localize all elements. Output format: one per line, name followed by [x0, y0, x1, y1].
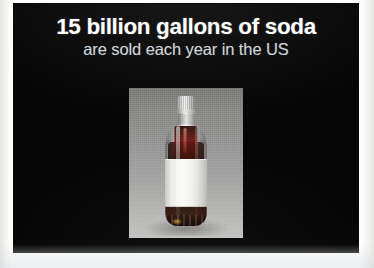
bottle-blank-label: [165, 159, 207, 207]
cola-liquid-neck: [175, 126, 198, 160]
page-background: 15 billion gallons of soda are sold each…: [0, 0, 374, 268]
infographic-slide: 15 billion gallons of soda are sold each…: [14, 4, 358, 252]
page-subtitle: are sold each year in the US: [14, 40, 358, 59]
slide-text-block: 15 billion gallons of soda are sold each…: [14, 14, 358, 59]
soda-bottle-illustration: [163, 96, 209, 234]
page-title: 15 billion gallons of soda: [14, 14, 358, 39]
bottle-cap: [178, 96, 195, 110]
soda-bottle-photo: [129, 88, 243, 238]
